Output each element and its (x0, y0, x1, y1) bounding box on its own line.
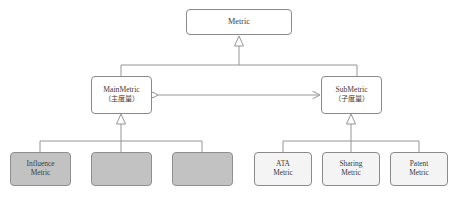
class-box-ata-metric[interactable]: ATA Metric (254, 152, 312, 186)
generalization-to-sub-metric (283, 114, 419, 152)
class-box-sub-metric[interactable]: SubMetric （子度量） (321, 76, 382, 114)
class-box-patent-metric[interactable]: Patent Metric (390, 152, 448, 186)
association-main-to-sub (148, 91, 320, 99)
class-box-blank-metric-2[interactable] (172, 152, 233, 186)
uml-class-diagram: Metric MainMetric （主度量） SubMetric （子度量） … (0, 0, 455, 199)
generalization-to-main-metric (40, 114, 202, 152)
class-name-metric: Metric (228, 17, 250, 27)
class-subtitle-main-metric: （主度量） (104, 95, 139, 103)
class-name-sharing-metric-line2: Metric (341, 169, 361, 178)
class-box-main-metric[interactable]: MainMetric （主度量） (91, 76, 152, 114)
class-name-influence-metric-line2: Metric (31, 169, 51, 178)
class-box-influence-metric[interactable]: Influence Metric (10, 152, 71, 186)
class-subtitle-sub-metric: （子度量） (334, 95, 369, 103)
class-box-metric[interactable]: Metric (186, 9, 292, 35)
class-name-ata-metric-line2: Metric (273, 169, 293, 178)
class-box-blank-metric-1[interactable] (91, 152, 152, 186)
generalization-to-metric (121, 36, 357, 76)
class-box-sharing-metric[interactable]: Sharing Metric (322, 152, 380, 186)
class-name-patent-metric-line2: Metric (409, 169, 429, 178)
